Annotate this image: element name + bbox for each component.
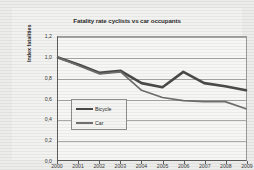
y-tick-label: 0,8 [34,75,52,81]
y-tick-label: 1,0 [34,54,52,60]
legend-swatch-bicycle-icon [76,108,93,111]
x-axis-label: Year [57,169,247,170]
chart-legend: Bicycle Car [71,99,127,130]
legend-item-bicycle: Bicycle [76,104,111,114]
chart-card: Fatality rate cyclists vs car occupants … [12,8,242,160]
y-tick-label: 0,2 [34,137,52,143]
figure-canvas: Fatality rate cyclists vs car occupants … [0,0,254,170]
y-tick-label: 1,2 [34,33,52,39]
legend-swatch-car-icon [76,122,93,124]
chart-title: Fatality rate cyclists vs car occupants [12,17,242,24]
y-tick-label: 0,6 [34,96,52,102]
legend-item-car: Car [76,118,103,128]
y-axis-label: Index fatalities [26,25,32,62]
legend-label-bicycle: Bicycle [95,106,111,112]
legend-label-car: Car [95,120,103,126]
series-line-bicycle [58,58,246,91]
y-tick-label: 0,4 [34,116,52,122]
plot-area: Bicycle Car [57,36,247,161]
